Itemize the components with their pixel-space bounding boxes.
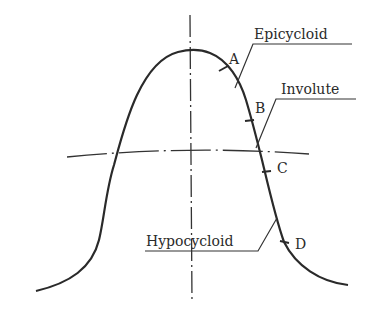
point-c-tick (262, 171, 271, 172)
point-c-label: C (277, 160, 288, 176)
point-b-tick (245, 120, 254, 121)
epicycloid-label: Epicycloid (254, 26, 328, 42)
center-line (190, 15, 192, 302)
hypocycloid-label: Hypocycloid (146, 233, 233, 249)
involute-label: Involute (281, 81, 339, 97)
tooth-profile-diagram: Epicycloid Involute Hypocycloid A B C D (0, 0, 378, 309)
point-a-tick (219, 66, 228, 71)
point-a-label: A (228, 51, 240, 67)
point-d-tick (280, 241, 289, 243)
involute-leader (256, 99, 356, 148)
point-d-label: D (295, 236, 306, 252)
pitch-line (67, 150, 309, 157)
point-b-label: B (255, 100, 265, 116)
